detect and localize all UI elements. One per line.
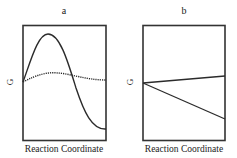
plots-svg bbox=[0, 0, 237, 158]
panel-b-frame bbox=[143, 26, 225, 141]
panel-b-upper-line bbox=[143, 76, 225, 83]
panel-b-lower-line bbox=[143, 83, 225, 119]
panel-a-solid-curve bbox=[23, 34, 106, 129]
panel-a-dotted-curve bbox=[23, 73, 106, 82]
